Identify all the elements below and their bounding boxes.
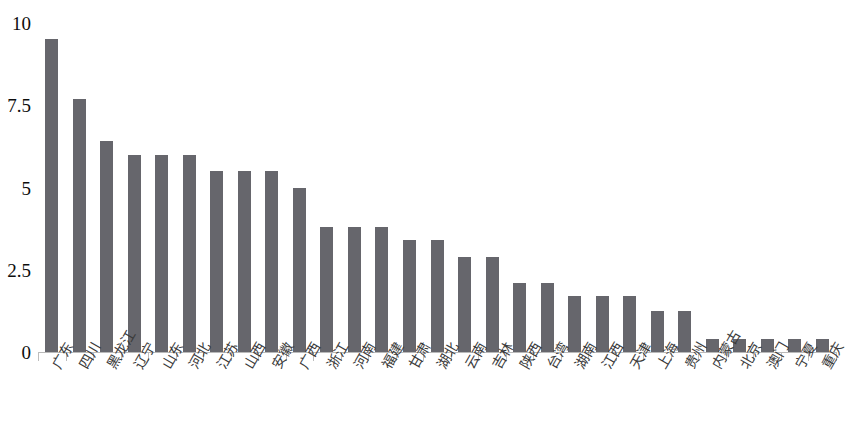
bar	[541, 283, 554, 352]
bar	[431, 240, 444, 352]
bar	[375, 227, 388, 352]
bar	[183, 155, 196, 352]
bar	[623, 296, 636, 352]
bar	[458, 257, 471, 352]
bar	[238, 171, 251, 352]
bar	[45, 39, 58, 352]
y-axis-labels: 02.557.510	[0, 0, 38, 421]
bar	[265, 171, 278, 352]
x-axis-labels: 广东四川黑龙江辽宁山东河北江苏山西安徽广西浙江河南福建甘肃湖北云南吉林陕西台湾湖…	[38, 352, 836, 421]
bar	[486, 257, 499, 352]
y-axis-tick-label: 10	[12, 14, 31, 33]
bar	[73, 99, 86, 352]
bar	[293, 188, 306, 353]
y-axis-tick-label: 5	[22, 178, 32, 197]
bar-series	[38, 0, 836, 352]
bar	[155, 155, 168, 352]
y-axis-tick-label: 7.5	[7, 96, 31, 115]
bar	[100, 141, 113, 352]
bar	[128, 155, 141, 352]
bar	[403, 240, 416, 352]
y-axis-tick-label: 0	[22, 343, 32, 362]
bar	[210, 171, 223, 352]
bar	[348, 227, 361, 352]
bar	[320, 227, 333, 352]
bar	[596, 296, 609, 352]
bar	[513, 283, 526, 352]
y-axis-tick-label: 2.5	[7, 260, 31, 279]
bar	[568, 296, 581, 352]
